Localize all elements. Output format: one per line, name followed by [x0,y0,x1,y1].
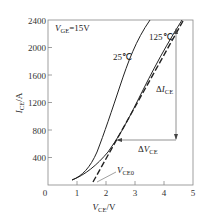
y-axis [48,48,52,158]
x-tick-label: 2 [104,188,109,198]
y-tick-label: 2400 [28,16,47,26]
y-axis-title: ICE/A [14,92,25,114]
y-tick-label: 2000 [28,43,47,53]
delta-i-arrowhead [174,134,178,140]
linear-approx-dashed [93,21,183,182]
label-25c: 25℃ [113,52,132,62]
x-tick-label: 1 [75,188,80,198]
x-tick-label: 4 [162,188,167,198]
chart: 400 800 1200 1600 2000 2400 0 1 2 3 4 5 … [0,0,207,220]
label-delta-v: ΔVCE [138,144,158,155]
x-tick-label: 5 [191,188,196,198]
vge-condition-label: VGE=15V [55,23,90,34]
label-vce0: VCE0 [117,165,134,176]
vce0-leader [97,172,116,182]
y-tick-label: 1200 [28,98,47,108]
y-tick-label: 800 [33,126,47,136]
x-axis-title: VCE/V [93,202,116,213]
y-tick-label: 400 [33,153,47,163]
label-125c: 125℃ [149,32,173,42]
x-axis [77,181,164,185]
plot-frame [48,20,193,185]
label-delta-i: ΔICE [156,84,173,95]
x-tick-label: 0 [43,188,48,198]
x-tick-label: 3 [133,188,138,198]
curve-125c [72,20,182,180]
y-tick-label: 1600 [28,71,47,81]
